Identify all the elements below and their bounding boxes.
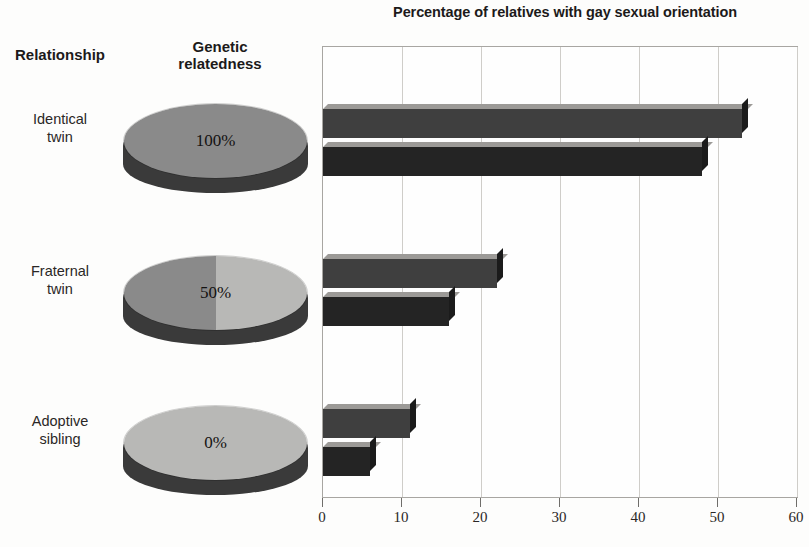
row-label-1: Fraternaltwin bbox=[0, 263, 120, 298]
x-tick-20 bbox=[480, 498, 481, 507]
disc-graphic: 50% bbox=[123, 255, 308, 360]
bar-females-0 bbox=[323, 147, 702, 176]
bar-front-face bbox=[323, 109, 742, 138]
relatedness-value: 100% bbox=[123, 103, 308, 179]
x-tick-label-50: 50 bbox=[710, 509, 725, 526]
bar-front-face bbox=[323, 259, 497, 288]
x-tick-label-60: 60 bbox=[789, 509, 804, 526]
bar-males-0 bbox=[323, 109, 742, 138]
disc-graphic: 0% bbox=[123, 405, 308, 510]
row-label-line1: Fraternal bbox=[31, 263, 89, 279]
row-label-line2: sibling bbox=[39, 431, 80, 447]
bar-front-face bbox=[323, 409, 410, 438]
x-tick-30 bbox=[559, 498, 560, 507]
column-header-genetic-relatedness: Genetic relatedness bbox=[150, 38, 290, 73]
genetic-relatedness-disc-0: 100% bbox=[123, 103, 308, 208]
figure-root: Percentage of relatives with gay sexual … bbox=[0, 0, 809, 547]
plot-area: Males Females bbox=[322, 46, 798, 498]
gridline-60 bbox=[797, 47, 798, 497]
bar-front-face bbox=[323, 147, 702, 176]
x-tick-40 bbox=[638, 498, 639, 507]
row-label-line2: twin bbox=[47, 129, 73, 145]
row-label-line1: Adoptive bbox=[32, 413, 88, 429]
bar-front-face bbox=[323, 447, 370, 476]
genetic-relatedness-disc-2: 0% bbox=[123, 405, 308, 510]
genetic-relatedness-disc-1: 50% bbox=[123, 255, 308, 360]
relatedness-value: 50% bbox=[123, 255, 308, 331]
bar-side-face bbox=[497, 248, 503, 283]
bar-front-face bbox=[323, 297, 449, 326]
bar-males-1 bbox=[323, 259, 497, 288]
chart-title: Percentage of relatives with gay sexual … bbox=[330, 4, 800, 20]
x-tick-60 bbox=[796, 498, 797, 507]
bar-side-face bbox=[742, 98, 748, 133]
x-tick-0 bbox=[322, 498, 323, 507]
bar-side-face bbox=[449, 286, 455, 321]
bar-females-2 bbox=[323, 447, 370, 476]
bar-side-face bbox=[702, 136, 708, 171]
bar-side-face bbox=[410, 398, 416, 433]
disc-graphic: 100% bbox=[123, 103, 308, 208]
x-tick-label-40: 40 bbox=[631, 509, 646, 526]
row-label-line1: Identical bbox=[33, 111, 87, 127]
row-label-0: Identicaltwin bbox=[0, 111, 120, 146]
genetic-relatedness-line2: relatedness bbox=[178, 55, 261, 72]
bar-males-2 bbox=[323, 409, 410, 438]
relatedness-value: 0% bbox=[123, 405, 308, 481]
column-header-relationship: Relationship bbox=[0, 46, 120, 63]
x-tick-10 bbox=[401, 498, 402, 507]
row-label-line2: twin bbox=[47, 281, 73, 297]
row-label-2: Adoptivesibling bbox=[0, 413, 120, 448]
genetic-relatedness-line1: Genetic bbox=[192, 38, 247, 55]
x-tick-label-10: 10 bbox=[394, 509, 409, 526]
x-tick-label-30: 30 bbox=[552, 509, 567, 526]
bar-side-face bbox=[370, 436, 376, 471]
x-tick-50 bbox=[717, 498, 718, 507]
bar-females-1 bbox=[323, 297, 449, 326]
x-tick-label-20: 20 bbox=[473, 509, 488, 526]
x-tick-label-0: 0 bbox=[318, 509, 326, 526]
